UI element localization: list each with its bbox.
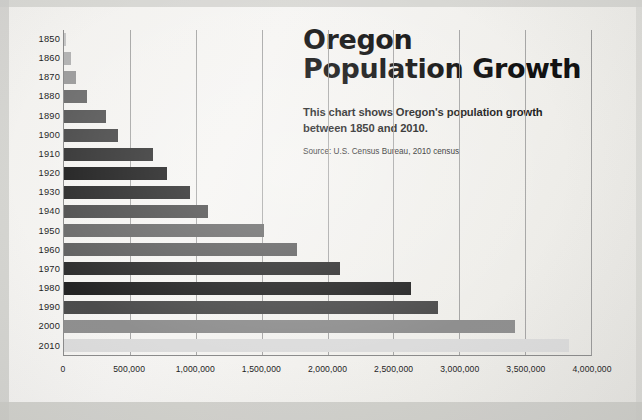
bar-row — [64, 30, 591, 49]
y-axis-tick-label: 1850 — [22, 34, 60, 44]
y-axis-tick-label: 1900 — [22, 130, 60, 140]
y-axis-tick-label: 1880 — [22, 91, 60, 101]
x-axis-labels: 0500,0001,000,0001,500,0002,000,0002,500… — [63, 358, 592, 378]
page-edge-bottom — [0, 402, 642, 420]
bar-row — [64, 87, 591, 106]
x-axis-tick-label: 1,000,000 — [176, 364, 215, 374]
bar-1850 — [64, 33, 66, 46]
plot-area — [63, 30, 592, 356]
bar-row — [64, 106, 591, 125]
bar-chart: 1850186018701880189019001910192019301940… — [22, 26, 592, 378]
poster-canvas: Oregon Population Growth This chart show… — [0, 0, 642, 420]
y-axis-tick-label: 1910 — [22, 149, 60, 159]
bar-row — [64, 336, 591, 355]
bar-1950 — [64, 224, 264, 237]
bar-row — [64, 317, 591, 336]
bar-1940 — [64, 205, 208, 218]
x-axis-tick-label: 1,500,000 — [242, 364, 281, 374]
y-axis-tick-label: 2010 — [22, 341, 60, 351]
y-axis-tick-label: 1990 — [22, 302, 60, 312]
bar-row — [64, 164, 591, 183]
bar-row — [64, 240, 591, 259]
bar-1990 — [64, 301, 438, 314]
x-axis-tick-label: 2,000,000 — [308, 364, 347, 374]
bar-1910 — [64, 148, 153, 161]
bar-2010 — [64, 339, 569, 352]
page-edge-right — [636, 0, 642, 420]
bar-1860 — [64, 52, 71, 65]
bar-row — [64, 126, 591, 145]
bar-1970 — [64, 262, 340, 275]
bar-1980 — [64, 282, 411, 295]
bar-row — [64, 279, 591, 298]
page-edge-left — [0, 0, 9, 420]
x-axis-tick-label: 500,000 — [113, 364, 145, 374]
bar-1890 — [64, 110, 106, 123]
y-axis-tick-label: 1890 — [22, 111, 60, 121]
page-edge-top — [0, 0, 642, 7]
y-axis-tick-label: 2000 — [22, 321, 60, 331]
bar-row — [64, 221, 591, 240]
bar-1870 — [64, 71, 76, 84]
bar-1880 — [64, 90, 87, 103]
x-axis-tick-label: 3,000,000 — [440, 364, 479, 374]
bar-row — [64, 202, 591, 221]
y-axis-tick-label: 1940 — [22, 206, 60, 216]
x-axis-tick-label: 2,500,000 — [374, 364, 413, 374]
x-axis-tick-label: 3,500,000 — [506, 364, 545, 374]
y-axis-tick-label: 1970 — [22, 264, 60, 274]
x-axis-tick-label: 0 — [61, 364, 66, 374]
bar-row — [64, 68, 591, 87]
bar-1920 — [64, 167, 167, 180]
bar-1900 — [64, 129, 118, 142]
bar-row — [64, 259, 591, 278]
bar-2000 — [64, 320, 515, 333]
gridline — [591, 30, 592, 355]
y-axis-tick-label: 1870 — [22, 72, 60, 82]
y-axis-tick-label: 1960 — [22, 245, 60, 255]
bar-row — [64, 49, 591, 68]
y-axis-tick-label: 1950 — [22, 226, 60, 236]
y-axis-labels: 1850186018701880189019001910192019301940… — [22, 30, 60, 356]
bar-1930 — [64, 186, 190, 199]
y-axis-tick-label: 1920 — [22, 168, 60, 178]
y-axis-tick-label: 1860 — [22, 53, 60, 63]
x-axis-tick-label: 4,000,000 — [572, 364, 611, 374]
y-axis-tick-label: 1980 — [22, 283, 60, 293]
y-axis-tick-label: 1930 — [22, 187, 60, 197]
bar-row — [64, 298, 591, 317]
bar-row — [64, 183, 591, 202]
bar-row — [64, 145, 591, 164]
bar-1960 — [64, 243, 297, 256]
